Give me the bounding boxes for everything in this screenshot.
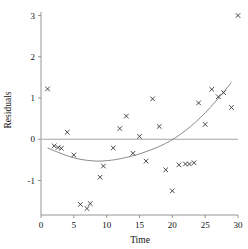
data-point-markers — [45, 13, 240, 211]
y-tick-label: 1 — [31, 93, 36, 103]
data-point-marker — [236, 13, 241, 18]
data-point-marker — [221, 90, 226, 95]
x-axis: 051015202530 Time — [39, 215, 243, 245]
data-point-marker — [144, 159, 149, 164]
x-tick-label: 30 — [234, 220, 244, 230]
data-point-marker — [157, 124, 162, 129]
y-tick-label: 2 — [31, 52, 36, 62]
y-axis: -10123 Residuals — [3, 11, 41, 215]
fitted-trend-curve — [48, 82, 232, 161]
data-point-marker — [163, 167, 168, 172]
data-point-marker — [183, 162, 188, 167]
y-tick-label: -1 — [28, 176, 36, 186]
data-point-marker — [65, 130, 70, 135]
x-tick-label: 5 — [72, 220, 77, 230]
data-point-marker — [118, 126, 123, 131]
y-tick-label: 0 — [31, 134, 36, 144]
x-tick-label: 0 — [39, 220, 44, 230]
x-tick-label: 15 — [135, 220, 145, 230]
x-axis-title: Time — [130, 235, 150, 245]
data-point-marker — [177, 163, 182, 168]
y-tick-label: 3 — [31, 11, 36, 21]
data-point-marker — [124, 114, 129, 119]
data-point-marker — [45, 87, 50, 92]
x-tick-label: 10 — [102, 220, 112, 230]
data-point-marker — [52, 144, 57, 149]
data-point-marker — [187, 162, 192, 167]
y-axis-title: Residuals — [3, 91, 13, 128]
data-point-marker — [192, 160, 197, 165]
data-point-marker — [101, 164, 106, 169]
data-point-marker — [56, 145, 61, 150]
data-point-marker — [170, 189, 175, 194]
data-point-marker — [88, 201, 93, 206]
data-point-marker — [137, 134, 142, 139]
data-point-marker — [111, 146, 116, 151]
x-tick-label: 20 — [168, 220, 178, 230]
data-point-marker — [131, 151, 136, 156]
plot-area — [42, 13, 240, 211]
data-point-marker — [196, 101, 201, 106]
data-point-marker — [203, 122, 208, 127]
data-point-marker — [98, 175, 103, 180]
data-point-marker — [72, 153, 77, 158]
x-tick-label: 25 — [201, 220, 211, 230]
data-point-marker — [78, 202, 83, 207]
data-point-marker — [59, 146, 64, 151]
residuals-scatter-chart: -10123 Residuals 051015202530 Time — [0, 0, 248, 249]
data-point-marker — [209, 87, 214, 92]
y-axis-ticks: -10123 — [28, 11, 42, 186]
data-point-marker — [85, 206, 90, 211]
data-point-marker — [150, 97, 155, 102]
data-point-marker — [229, 105, 234, 110]
x-axis-ticks: 051015202530 — [39, 215, 243, 230]
chart-canvas: -10123 Residuals 051015202530 Time — [0, 0, 248, 249]
